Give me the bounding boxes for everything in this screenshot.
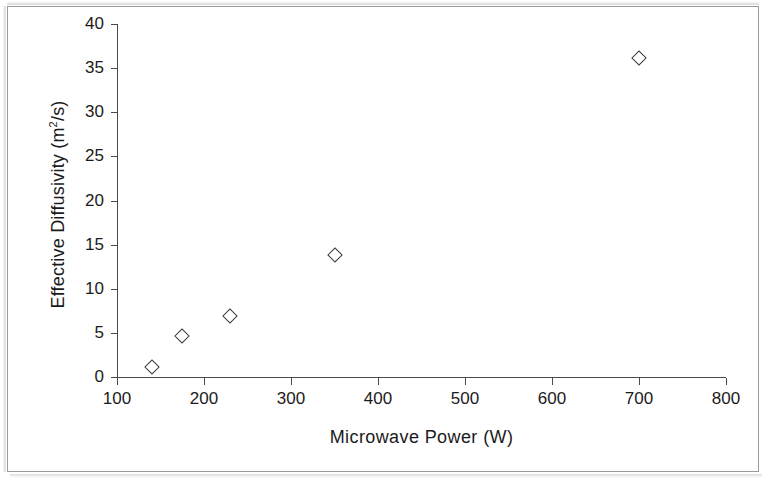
x-axis-tick-label: 100 <box>82 390 152 407</box>
y-axis-tick-label-text: 40 <box>85 15 104 32</box>
x-axis-tick <box>465 378 466 385</box>
y-axis-tick-label-text: 0 <box>95 368 104 385</box>
data-point-marker <box>222 308 238 324</box>
y-axis-tick <box>111 333 118 334</box>
x-axis-tick-label: 600 <box>517 390 587 407</box>
x-axis-tick <box>552 378 553 385</box>
data-point-marker <box>144 360 160 376</box>
x-axis-line <box>117 377 726 378</box>
x-axis-tick <box>204 378 205 385</box>
x-axis-tick-label: 400 <box>343 390 413 407</box>
y-axis-tick-label-text: 30 <box>85 103 104 120</box>
x-axis-tick <box>726 378 727 385</box>
data-point-marker <box>327 247 343 263</box>
y-axis-tick-label-text: 10 <box>85 280 104 297</box>
data-point-marker <box>174 329 190 345</box>
y-axis-tick-label-text: 20 <box>85 192 104 209</box>
y-axis-tick-label-text: 15 <box>85 236 104 253</box>
y-axis-tick <box>111 156 118 157</box>
y-axis-tick-label-text: 35 <box>85 59 104 76</box>
x-axis-tick-label: 800 <box>691 390 761 407</box>
y-axis-title: Effective Diffusivity (m2/s) <box>48 25 69 385</box>
y-axis-tick <box>111 112 118 113</box>
y-axis-tick-label-text: 25 <box>85 147 104 164</box>
y-axis-tick-label-text: 5 <box>95 324 104 341</box>
scatter-plot-area: 0510152025303540 10020030040050060070080… <box>0 0 766 485</box>
y-axis-tick <box>111 24 118 25</box>
x-axis-tick-label: 300 <box>256 390 326 407</box>
data-point-marker <box>631 51 647 67</box>
x-axis-title: Microwave Power (W) <box>117 427 726 448</box>
x-axis-tick-label: 500 <box>430 390 500 407</box>
x-axis-tick-label: 200 <box>169 390 239 407</box>
x-axis-tick-label: 700 <box>604 390 674 407</box>
y-axis-tick <box>111 68 118 69</box>
y-axis-tick <box>111 245 118 246</box>
x-axis-tick <box>378 378 379 385</box>
figure-frame: 0510152025303540 10020030040050060070080… <box>0 0 766 485</box>
y-axis-tick <box>111 201 118 202</box>
y-axis-tick <box>111 289 118 290</box>
x-axis-tick <box>639 378 640 385</box>
x-axis-tick <box>117 378 118 385</box>
x-axis-tick <box>291 378 292 385</box>
